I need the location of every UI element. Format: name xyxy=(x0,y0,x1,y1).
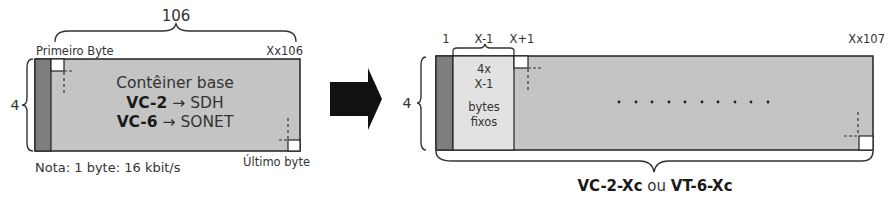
fixed-bytes-brace xyxy=(453,44,514,56)
first-payload-byte-marker xyxy=(514,56,528,68)
right-arrow-icon xyxy=(330,68,382,130)
last-byte-marker xyxy=(859,136,873,150)
vc2-label: VC-2 xyxy=(126,94,167,112)
vc2-line: VC-2 → SDH xyxy=(126,94,223,112)
last-byte-label: Último byte xyxy=(243,154,310,169)
left-diagram: 106 Primeiro Byte Xx106 4 Contêiner base… xyxy=(11,7,310,175)
vc2xc-label: VC-2-Xc xyxy=(577,177,642,195)
width-brace xyxy=(436,151,873,172)
diagram-canvas: 106 Primeiro Byte Xx106 4 Contêiner base… xyxy=(0,0,889,206)
rows-label: 4 xyxy=(11,97,20,113)
overhead-column xyxy=(35,59,51,151)
last-column-label: Xx106 xyxy=(266,44,303,58)
rows-brace xyxy=(22,59,33,151)
first-byte-label: Primeiro Byte xyxy=(36,44,114,58)
arrow-glyph: → xyxy=(163,113,176,131)
col-label-x-plus-1: X+1 xyxy=(510,32,535,46)
width-label: 106 xyxy=(162,7,191,25)
rows-label: 4 xyxy=(403,95,412,111)
vc6-line: VC-6 → SONET xyxy=(117,113,234,131)
right-diagram: 1 X-1 X+1 Xx107 4 4x X-1 bytes fixos xyxy=(403,32,885,195)
container-caption: VC-2-Xc ou VT-6-Xc xyxy=(577,177,732,195)
note: Nota: 1 byte: 16 kbit/s xyxy=(35,160,181,175)
vt6xc-label: VT-6-Xc xyxy=(671,177,733,195)
rows-brace xyxy=(417,57,426,150)
sonet-label: SONET xyxy=(180,113,233,131)
last-byte-marker xyxy=(288,140,300,151)
width-brace xyxy=(55,24,296,42)
fixed-bytes-count: 4x xyxy=(477,62,491,76)
first-byte-marker xyxy=(51,59,64,71)
fixed-bytes-x-minus-1: X-1 xyxy=(475,77,494,91)
sdh-label: SDH xyxy=(190,94,223,112)
fixed-bytes-word2: fixos xyxy=(471,115,498,129)
container-title: Contêiner base xyxy=(116,74,234,92)
col-label-1: 1 xyxy=(442,32,449,46)
or-label: ou xyxy=(647,177,666,195)
overhead-column xyxy=(436,56,453,150)
last-column-label: Xx107 xyxy=(848,32,885,46)
vc6-label: VC-6 xyxy=(117,113,158,131)
arrow-glyph: → xyxy=(172,94,185,112)
fixed-bytes-word1: bytes xyxy=(468,100,500,114)
col-label-x-minus-1: X-1 xyxy=(475,32,494,46)
